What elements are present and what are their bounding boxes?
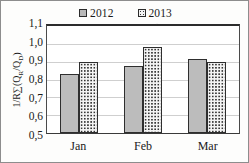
chart-figure: 2012 2013 1/R∑(QR/QD) 1,11,00,90,80,70,6… (0, 0, 249, 163)
legend-swatch-dotted-icon (138, 9, 146, 17)
bar-feb-2012[interactable] (124, 66, 143, 133)
bar-feb-2013[interactable] (143, 47, 162, 133)
legend-label-2012: 2012 (90, 8, 113, 19)
y-axis-tick-0-7: 0,7 (29, 92, 43, 103)
bar-group-jan (47, 26, 111, 133)
legend-swatch-solid-icon (79, 9, 87, 17)
plot-area (46, 24, 240, 134)
x-axis-label-jan: Jan (46, 139, 111, 157)
y-axis-tick-1-0: 1,0 (29, 36, 43, 47)
y-axis-tick-1-1: 1,1 (29, 18, 43, 29)
y-axis-tick-labels: 1,11,00,90,80,70,60,5 (17, 23, 43, 135)
y-axis-tick-0-8: 0,8 (29, 74, 43, 85)
bar-group-feb (111, 26, 175, 133)
x-axis-label-mar: Mar (175, 139, 240, 157)
bar-mar-2013[interactable] (207, 62, 226, 133)
legend-label-2013: 2013 (149, 8, 172, 19)
y-axis-tick-0-5: 0,5 (29, 130, 43, 141)
y-axis-tick-0-6: 0,6 (29, 111, 43, 122)
bar-mar-2012[interactable] (188, 59, 207, 133)
x-axis-category-labels: JanFebMar (46, 139, 240, 157)
x-axis-label-feb: Feb (111, 139, 176, 157)
bar-groups (47, 26, 239, 133)
bar-jan-2012[interactable] (60, 74, 79, 133)
bar-group-mar (175, 26, 239, 133)
legend-item-2013[interactable]: 2013 (138, 8, 172, 19)
legend-item-2012[interactable]: 2012 (79, 8, 113, 19)
y-axis-tick-0-9: 0,9 (29, 55, 43, 66)
bar-jan-2013[interactable] (79, 62, 98, 133)
